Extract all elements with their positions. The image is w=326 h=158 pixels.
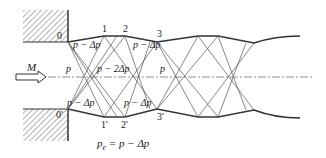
point-3p-label: 3' [157, 112, 164, 122]
point-0-label: 0 [57, 31, 62, 41]
jet-diagram: 0 1 2 3 0' 1' 2' 3' M p − Δp p − Δp p − … [0, 0, 326, 158]
center-pressure: p − 2Δp [97, 64, 130, 74]
point-1p-label: 1' [101, 120, 108, 130]
core-pressure: p [66, 64, 71, 74]
upper-jet-boundary [68, 36, 300, 43]
point-1-label: 1 [102, 24, 107, 34]
diagram-canvas [0, 0, 326, 158]
upper-region-2-pressure: p − Δp [133, 40, 161, 50]
point-2-label: 2 [123, 24, 128, 34]
point-0p-label: 0' [56, 110, 63, 120]
right-pressure: p [160, 64, 165, 74]
caption-rest: = p − Δp [106, 137, 149, 149]
lower-region-2-pressure: p − Δp [124, 98, 152, 108]
upper-region-1-pressure: p − Δp [73, 40, 101, 50]
lower-region-1-pressure: p − Δp [67, 98, 95, 108]
exit-pressure-caption: pe = p − Δp [97, 137, 149, 152]
lower-jet-boundary [68, 109, 300, 118]
point-2p-label: 2' [121, 120, 128, 130]
point-3-label: 3 [157, 29, 162, 39]
mach-label: M [27, 62, 36, 73]
